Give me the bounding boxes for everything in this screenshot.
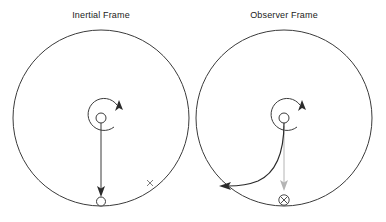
target-circled-x-mark-observer [279,195,289,205]
hub-inertial [96,113,106,123]
ball-inertial [97,197,106,206]
panel-inertial [13,30,189,206]
target-x-mark-inertial [147,180,153,186]
diagram-svg [0,0,386,222]
trajectory-curved-observer [228,123,284,186]
rotation-arrowhead-observer [298,100,306,111]
rotation-arrowhead-inertial [115,100,123,111]
panel-observer [196,30,372,206]
figure-canvas: Inertial Frame Observer Frame [0,0,386,222]
hub-observer [279,113,289,123]
